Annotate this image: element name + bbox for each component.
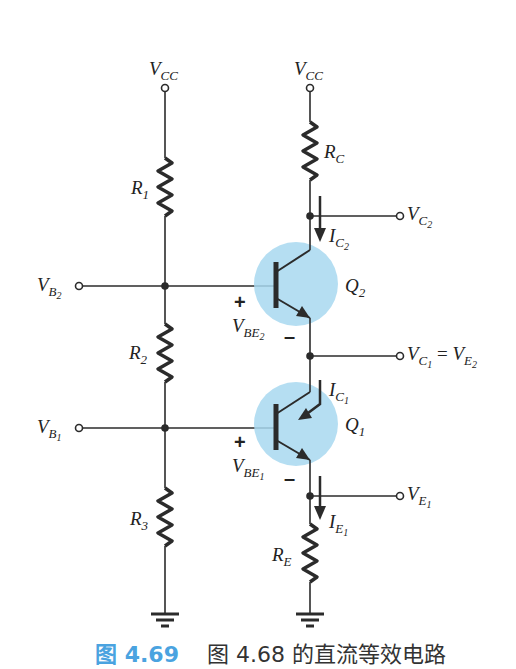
vc2-terminal	[397, 213, 404, 220]
vb2-terminal	[76, 283, 83, 290]
rc-resistor	[303, 122, 317, 180]
q2-highlight	[254, 242, 338, 326]
vc1-ve2-label: VC1 = VE2	[407, 344, 477, 370]
q2-label: Q2	[345, 276, 365, 299]
vbe1-plus: +	[234, 432, 246, 452]
vb2-label: VB2	[37, 275, 62, 301]
vcc-right-terminal	[307, 85, 314, 92]
vb1-label: VB1	[37, 417, 62, 443]
r2-resistor	[158, 324, 172, 382]
ic1-label: IC1	[329, 380, 349, 406]
ground-right-symbol	[296, 614, 324, 626]
r1-label: R1	[131, 178, 149, 201]
ic2-arrow-icon	[314, 196, 326, 242]
figure-caption-text: 图 4.68 的直流等效电路	[207, 642, 446, 667]
vbe1-label: VBE1	[232, 456, 265, 482]
q1-label: Q1	[345, 415, 365, 438]
r3-label: R3	[130, 509, 148, 532]
re-label: RE	[272, 545, 292, 568]
ve1-terminal	[397, 493, 404, 500]
ie1-label: IE1	[329, 512, 348, 538]
re-resistor	[303, 524, 317, 582]
vbe2-label: VBE2	[232, 316, 265, 342]
r1-resistor	[158, 158, 172, 216]
vcc-right-label: VCC	[294, 59, 323, 82]
r2-label: R2	[129, 343, 147, 366]
rc-label: RC	[324, 142, 344, 165]
ve1-label: VE1	[407, 484, 432, 510]
vb1-terminal	[76, 425, 83, 432]
figure-number: 图 4.69	[95, 642, 179, 667]
vbe2-plus: +	[234, 292, 246, 312]
ie1-arrow-icon	[314, 476, 326, 520]
r3-resistor	[158, 488, 172, 546]
ic2-label: IC2	[329, 226, 349, 252]
vc2-label: VC2	[407, 204, 432, 230]
vc1-terminal	[397, 353, 404, 360]
vcc-left-label: VCC	[149, 59, 178, 82]
vbe2-minus: –	[284, 326, 295, 346]
ground-left-symbol	[151, 614, 179, 626]
figure-caption: 图 4.69图 4.68 的直流等效电路	[95, 644, 446, 666]
q1-highlight	[254, 382, 338, 466]
vcc-left-terminal	[162, 85, 169, 92]
vbe1-minus: –	[284, 468, 295, 488]
